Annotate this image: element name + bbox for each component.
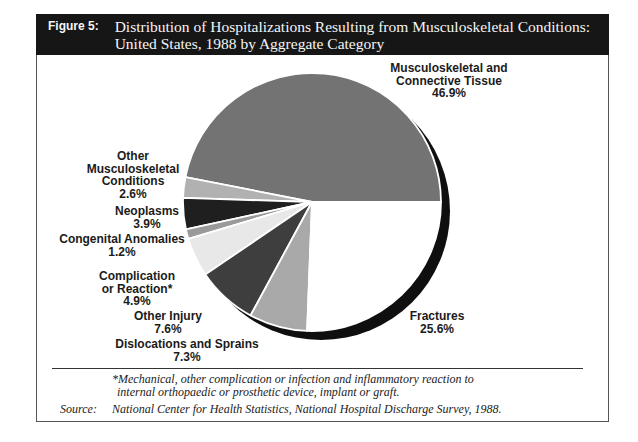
footnote-line2: internal orthopaedic or prosthetic devic… bbox=[112, 386, 474, 399]
slice-label-congenital-anomalies: Congenital Anomalies 1.2% bbox=[59, 233, 185, 258]
source-text: National Center for Health Statistics, N… bbox=[112, 402, 502, 417]
slice-label-other-musculoskeletal-conditions: Other Musculoskeletal Conditions 2.6% bbox=[87, 150, 180, 200]
figure-page: Figure 5: Distribution of Hospitalizatio… bbox=[0, 0, 638, 442]
slice-label-complication-or-reaction: Complication or Reaction* 4.9% bbox=[99, 270, 175, 308]
slice-label-other-injury: Other Injury 7.6% bbox=[134, 310, 202, 335]
slice-label-musculoskeletal-and-connective-tissue: Musculoskeletal and Connective Tissue 46… bbox=[390, 62, 507, 100]
slice-label-dislocations-and-sprains: Dislocations and Sprains 7.3% bbox=[115, 338, 258, 363]
source-label: Source: bbox=[60, 402, 97, 417]
slice-label-fractures: Fractures 25.6% bbox=[410, 310, 465, 335]
footnote: *Mechanical, other complication or infec… bbox=[112, 373, 474, 399]
slice-label-neoplasms: Neoplasms 3.9% bbox=[115, 205, 179, 230]
footnote-divider bbox=[52, 368, 583, 369]
